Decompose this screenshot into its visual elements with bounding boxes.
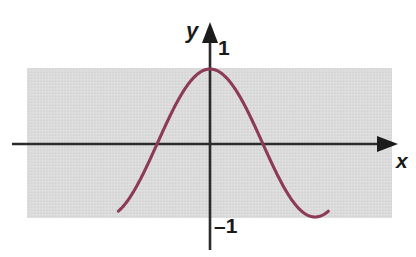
y-axis-label: y <box>186 20 198 42</box>
y-tick-label-negative-one: –1 <box>214 215 237 236</box>
cosine-curve-path <box>118 69 328 217</box>
curve-layer <box>0 0 416 257</box>
y-tick-label-positive-one: 1 <box>218 37 230 58</box>
cosine-function-figure: y x 1 –1 <box>0 0 416 257</box>
x-axis-label: x <box>396 150 408 171</box>
